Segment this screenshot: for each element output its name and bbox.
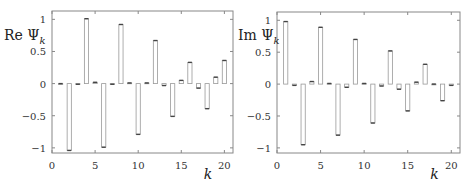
chart-re-psi: −1−0.500.5105101520Re Ψkk [4, 11, 233, 182]
x-tick-label: 20 [445, 160, 458, 171]
figure: −1−0.500.5105101520Re Ψkk −1−0.500.51051… [0, 0, 471, 188]
bar [188, 62, 192, 83]
bar [119, 24, 123, 83]
x-tick-label: 5 [92, 160, 98, 171]
plot-frame [52, 11, 233, 153]
y-tick-label: −1 [31, 143, 46, 154]
y-tick-label: −1 [256, 143, 271, 154]
x-tick-label: 0 [274, 160, 280, 171]
bar [284, 22, 288, 85]
y-tick-label: −0.5 [247, 111, 271, 122]
bar [440, 84, 444, 101]
x-tick-label: 10 [358, 160, 371, 171]
bar [353, 39, 357, 84]
y-tick-label: 1 [265, 15, 271, 26]
y-tick-label: 0 [265, 79, 271, 90]
bar [84, 19, 88, 84]
bar [214, 77, 218, 83]
bar [153, 41, 157, 84]
x-tick-label: 15 [175, 160, 188, 171]
x-tick-label: 10 [132, 160, 145, 171]
bar [423, 64, 427, 84]
bar [301, 84, 305, 145]
bar [397, 84, 401, 89]
bar [336, 84, 340, 135]
bar [318, 27, 322, 84]
bar [102, 84, 106, 148]
bar [222, 60, 226, 83]
x-axis-label: k [204, 166, 212, 182]
y-tick-label: 0.5 [30, 46, 46, 57]
x-tick-label: 15 [401, 160, 414, 171]
bar [205, 84, 209, 109]
bar [171, 84, 175, 117]
x-tick-label: 5 [317, 160, 323, 171]
x-axis-label: k [430, 166, 438, 182]
bar [136, 84, 140, 135]
bar [67, 84, 71, 151]
x-tick-label: 20 [218, 160, 231, 171]
bar [406, 84, 410, 111]
x-tick-label: 0 [49, 160, 55, 171]
y-axis-label: Re Ψk [4, 27, 46, 46]
chart-im-psi: −1−0.500.5105101520Im Ψkk [238, 12, 460, 182]
y-axis-label: Im Ψk [238, 27, 280, 46]
y-tick-label: 0.5 [255, 47, 271, 58]
y-tick-label: 0 [40, 79, 46, 90]
y-tick-label: −0.5 [22, 111, 46, 122]
bar [371, 84, 375, 123]
bar [388, 51, 392, 84]
y-tick-label: 1 [40, 14, 46, 25]
